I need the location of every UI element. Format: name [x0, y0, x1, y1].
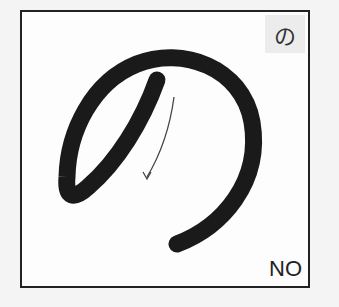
kana-card: の NO: [20, 10, 310, 288]
romaji-label: NO: [269, 256, 302, 282]
kana-stroke-drawing: [22, 12, 308, 286]
kana-label: の: [265, 15, 305, 53]
